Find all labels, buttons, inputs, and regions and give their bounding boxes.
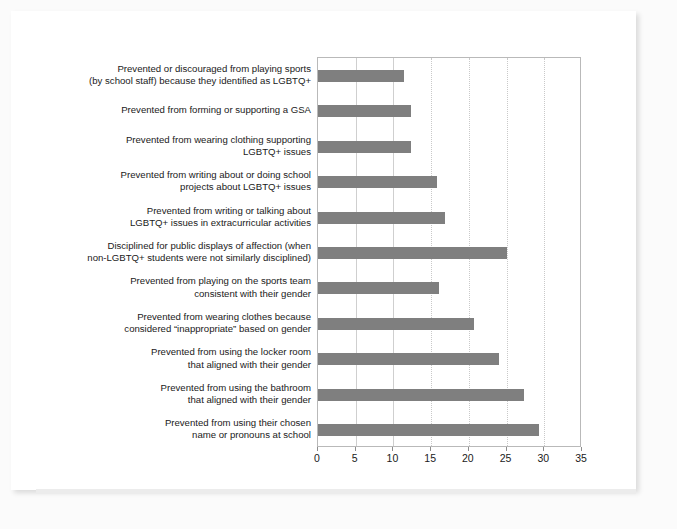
axis-tick-label: 0 [314,452,320,464]
axis-tick-label: 10 [387,452,399,464]
category-label: Prevented from writing about or doing sc… [17,169,317,193]
bar-row [318,271,580,306]
footer-rule [36,489,636,494]
bar [318,141,411,153]
bar-row [318,342,580,377]
axis-tick [317,447,318,451]
bar-row [318,235,580,270]
axis-tick-label: 5 [352,452,358,464]
axis-tick [392,447,393,451]
bar [318,282,439,294]
axis-tick-label: 25 [500,452,512,464]
bar [318,176,437,188]
axis-tick [355,447,356,451]
bar [318,389,524,401]
horizontal-bar-chart: Prevented or discouraged from playing sp… [11,11,636,490]
category-label: Prevented from forming or supporting a G… [17,104,317,116]
category-label: Prevented from playing on the sports tea… [17,275,317,299]
category-label: Prevented from wearing clothes because c… [17,311,317,335]
category-label: Prevented from using the bathroom that a… [17,382,317,406]
axis-tick [581,447,582,451]
axis-tick [543,447,544,451]
document-sheet: Prevented or discouraged from playing sp… [11,11,636,490]
bar-row [318,200,580,235]
bar [318,212,445,224]
bar [318,70,404,82]
axis-tick-label: 20 [462,452,474,464]
bar-row [318,306,580,341]
bar [318,318,474,330]
bar [318,353,499,365]
axis-tick-label: 30 [537,452,549,464]
category-label: Prevented from using their chosen name o… [17,417,317,441]
bar-row [318,93,580,128]
axis-tick-label: 35 [575,452,587,464]
bar [318,247,507,259]
bar-row [318,164,580,199]
bar-row [318,58,580,93]
category-axis-labels: Prevented or discouraged from playing sp… [11,57,317,447]
axis-tick [468,447,469,451]
axis-tick [430,447,431,451]
category-label: Prevented from writing or talking about … [17,204,317,228]
bar-row [318,129,580,164]
bar-row [318,413,580,448]
plot-area [317,57,581,447]
category-label: Prevented from using the locker room tha… [17,346,317,370]
page-background: Prevented or discouraged from playing sp… [0,0,677,529]
bar-row [318,377,580,412]
category-label: Disciplined for public displays of affec… [17,240,317,264]
bar [318,105,411,117]
axis-tick [506,447,507,451]
bar [318,424,539,436]
category-label: Prevented or discouraged from playing sp… [17,63,317,87]
value-axis: 05101520253035 [317,447,581,475]
axis-tick-label: 15 [424,452,436,464]
category-label: Prevented from wearing clothing supporti… [17,133,317,157]
